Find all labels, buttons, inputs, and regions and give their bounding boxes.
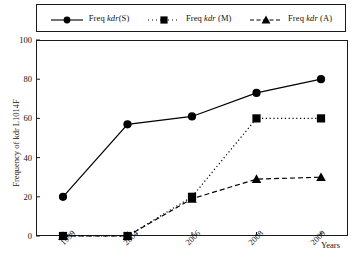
series-line <box>63 79 321 197</box>
series-circle <box>59 75 325 201</box>
series-square <box>59 114 325 240</box>
series-layer <box>58 75 326 240</box>
chart-overlay <box>0 0 358 273</box>
line-chart: Freq kdr(S) Freq kdr (M) <box>0 0 358 273</box>
series-line <box>63 177 321 236</box>
data-point-square <box>317 114 325 122</box>
data-point-circle <box>188 112 196 120</box>
series-triangle <box>58 172 326 240</box>
data-point-square <box>252 114 260 122</box>
data-point-circle <box>252 89 260 97</box>
data-point-circle <box>317 75 325 83</box>
data-point-circle <box>59 193 67 201</box>
data-point-circle <box>123 120 131 128</box>
series-line <box>63 118 321 236</box>
